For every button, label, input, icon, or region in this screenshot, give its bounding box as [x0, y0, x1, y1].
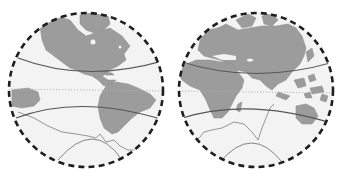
eastern-hemisphere	[176, 13, 338, 167]
world-map	[0, 0, 341, 179]
great-lakes	[119, 46, 122, 49]
hudson-bay	[91, 40, 96, 45]
western-hemisphere	[8, 12, 168, 167]
caspian-sea	[247, 58, 253, 61]
